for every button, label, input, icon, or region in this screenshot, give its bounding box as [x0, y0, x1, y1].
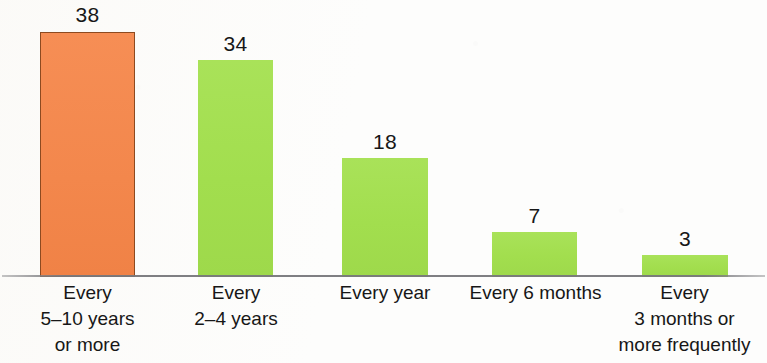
category-label-1-line-2: 5–10 years — [10, 306, 165, 332]
bar-group-5: 3 — [642, 0, 728, 277]
bar-value-label-5: 3 — [642, 228, 728, 249]
bar-value-label-4: 7 — [492, 205, 577, 226]
category-label-5-line-2: 3 months or — [602, 306, 767, 332]
category-label-2-line-1: Every — [165, 280, 307, 306]
category-label-5: Every 3 months or more frequently — [602, 280, 767, 358]
category-label-2-line-2: 2–4 years — [165, 306, 307, 332]
bar-1[interactable] — [40, 32, 135, 277]
bar-group-2: 34 — [198, 0, 273, 277]
category-label-1: Every 5–10 years or more — [10, 280, 165, 358]
x-axis-line — [2, 275, 765, 277]
category-label-1-line-1: Every — [10, 280, 165, 306]
category-label-3-line-1: Every year — [315, 280, 455, 306]
bar-group-4: 7 — [492, 0, 577, 277]
category-label-5-line-1: Every — [602, 280, 767, 306]
bar-group-3: 18 — [342, 0, 428, 277]
bar-chart: 38 34 18 7 3 Every 5–10 years — [0, 0, 767, 363]
bar-3[interactable] — [342, 158, 428, 277]
category-label-2: Every 2–4 years — [165, 280, 307, 332]
bar-2[interactable] — [198, 60, 273, 277]
category-label-4-line-1: Every 6 months — [458, 280, 613, 306]
bar-value-label-3: 18 — [342, 131, 428, 152]
category-label-1-line-3: or more — [10, 332, 165, 358]
plot-area: 38 34 18 7 3 — [0, 0, 767, 277]
bar-4[interactable] — [492, 232, 577, 277]
category-label-3: Every year — [315, 280, 455, 306]
bar-value-label-1: 38 — [40, 4, 135, 25]
bar-group-1: 38 — [40, 0, 135, 277]
bar-value-label-2: 34 — [198, 33, 273, 54]
x-axis-category-labels: Every 5–10 years or more Every 2–4 years… — [0, 280, 767, 363]
category-label-4: Every 6 months — [458, 280, 613, 306]
category-label-5-line-3: more frequently — [602, 332, 767, 358]
bar-5[interactable] — [642, 255, 728, 277]
